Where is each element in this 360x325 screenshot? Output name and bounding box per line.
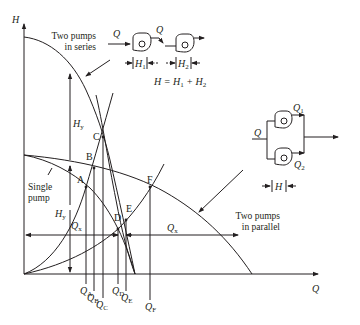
parallel-h-label: H	[275, 181, 282, 192]
series-pointer	[86, 60, 110, 76]
point-a-label: A	[77, 174, 84, 185]
parallel-flow-in-label: Q	[254, 127, 261, 138]
x-axis-label: Q	[312, 283, 319, 294]
parallel-schematic	[252, 111, 338, 192]
qx-right-label: Qx	[167, 222, 178, 237]
q1-label: Q1	[293, 102, 304, 117]
series-flow-in-label: Q	[113, 28, 120, 39]
q-tick-c: QC	[96, 299, 108, 314]
series-label: Two pumps in series	[40, 31, 96, 53]
h2-label: H2	[178, 58, 189, 73]
single-pump-label: Single pump	[28, 182, 56, 204]
point-e-label: E	[126, 203, 132, 214]
point-c-label: C	[93, 131, 100, 142]
series-flow-mid-label: Q	[156, 24, 163, 35]
single-pointer	[48, 168, 52, 175]
series-schematic	[108, 33, 204, 69]
point-b-label: B	[86, 151, 93, 162]
q-tick-e: QE	[121, 292, 133, 307]
point-f-label: F	[147, 174, 153, 185]
q-tick-f: QF	[145, 301, 156, 316]
hy-upper-label: Hy	[73, 118, 84, 133]
point-d-label: D	[114, 212, 121, 223]
y-axis-label: H	[12, 14, 19, 25]
q2-label: Q2	[294, 159, 305, 174]
parallel-label: Two pumps in parallel	[224, 211, 280, 233]
series-equation: H = H1 + H2	[154, 76, 206, 91]
parallel-pointer	[199, 170, 243, 212]
hy-lower-label: Hy	[55, 208, 66, 223]
qx-left-label: Qx	[71, 220, 82, 235]
h1-label: H1	[135, 58, 146, 73]
